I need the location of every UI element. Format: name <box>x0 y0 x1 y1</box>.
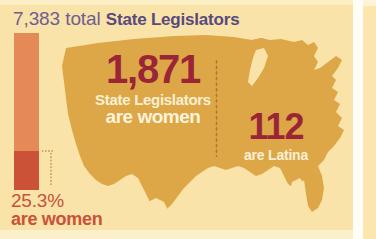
leader-line-horizontal <box>41 150 54 152</box>
women-count-line2: are women <box>90 107 216 126</box>
women-percent-caption: are women <box>11 210 102 228</box>
percent-bar-chart <box>14 33 39 190</box>
bar-chart-label: 25.3% are women <box>11 191 102 229</box>
bar-track-men <box>14 33 39 151</box>
infographic-root: 7,383 total State Legislators 25.3% are … <box>0 0 376 239</box>
latina-count-caption: are Latina <box>228 148 324 162</box>
women-percent-value: 25.3% <box>11 191 102 210</box>
right-page-panel <box>363 0 376 239</box>
right-page-panel-top-strip <box>363 0 376 6</box>
background-top-strip <box>0 0 353 5</box>
women-count-value: 1,871 <box>90 50 216 88</box>
bar-fill-women <box>14 151 39 190</box>
leader-line-vertical <box>50 152 52 185</box>
page-gutter <box>353 0 363 239</box>
latina-count-value: 112 <box>228 110 324 144</box>
women-count-line1: State Legislators <box>90 92 216 107</box>
stat-latina-legislators: 112 are Latina <box>228 110 324 162</box>
title-subject: State Legislators <box>106 10 240 29</box>
page-title: 7,383 total State Legislators <box>13 9 239 28</box>
total-suffix: total <box>60 8 106 29</box>
total-count: 7,383 <box>13 8 60 29</box>
background-bottom-strip <box>0 230 353 239</box>
stat-women-legislators: 1,871 State Legislators are women <box>90 50 216 126</box>
